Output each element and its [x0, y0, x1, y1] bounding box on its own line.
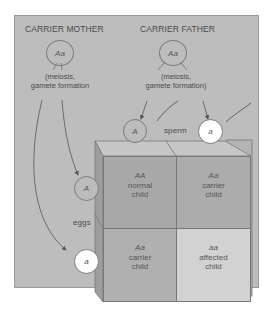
father-genotype: Aa: [168, 49, 178, 58]
sperm-A: A: [123, 119, 147, 143]
cell-Aa-carrier-bottom: Aa carrier child: [103, 228, 177, 302]
egg-a: a: [74, 249, 99, 274]
father-genotype-circle: Aa: [159, 40, 187, 66]
cell-aa-affected: aa affected child: [176, 228, 251, 302]
cell-Aa-carrier-top: Aa carrier child: [176, 156, 251, 229]
sperm-label: sperm: [164, 126, 187, 135]
sperm-a: a: [198, 119, 223, 144]
egg-A: A: [74, 176, 99, 201]
mother-meiosis-label: (meiosis, gamete formation: [22, 72, 98, 90]
father-meiosis-label: (meiosis, gamete formation): [136, 72, 216, 90]
mother-label: CARRIER MOTHER: [25, 24, 104, 34]
mother-genotype: Aa: [55, 49, 65, 58]
father-label: CARRIER FATHER: [140, 24, 215, 34]
eggs-label: eggs: [73, 218, 91, 227]
cell-AA-normal: AA normal child: [103, 156, 177, 229]
mother-genotype-circle: Aa: [46, 40, 74, 66]
